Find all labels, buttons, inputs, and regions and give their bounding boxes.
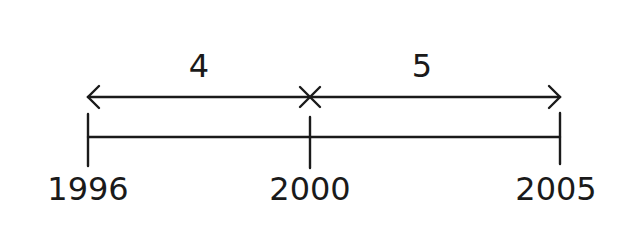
timeline-diagram: 4 5 1996 2000 2005 [0,0,632,234]
interval-label-2: 5 [412,47,432,85]
year-label-2005: 2005 [515,170,596,208]
year-label-1996: 1996 [47,170,128,208]
year-label-2000: 2000 [269,170,350,208]
interval-label-1: 4 [189,47,209,85]
